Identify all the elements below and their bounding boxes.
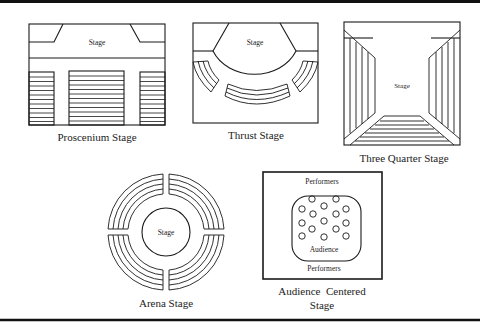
proscenium-stage-label: Stage (89, 38, 106, 47)
proscenium-stage-diagram: Stage Proscenium Stage (29, 24, 165, 143)
audience-centered-stage-diagram: Performers Audience Performers Audience … (263, 172, 382, 311)
audience-centered-title-line1: Audience Centered (278, 285, 366, 297)
proscenium-title: Proscenium Stage (57, 131, 136, 143)
performers-bottom-label: Performers (307, 264, 340, 273)
three-quarter-title: Three Quarter Stage (359, 152, 448, 164)
proscenium-seating (29, 71, 165, 125)
three-quarter-stage-label: Stage (394, 82, 410, 90)
arena-stage-label: Stage (158, 228, 175, 237)
thrust-stage-diagram: Stage Thrust Stage (193, 23, 318, 141)
arena-title: Arena Stage (139, 297, 193, 309)
thrust-title: Thrust Stage (228, 129, 284, 141)
three-quarter-stage-diagram: Stage Three Quarter Stage (344, 22, 460, 164)
arena-stage-diagram: Stage Arena Stage (108, 174, 224, 309)
thrust-seating (193, 61, 318, 104)
thrust-stage-label: Stage (247, 38, 264, 47)
audience-centered-title-line2: Stage (310, 299, 335, 311)
stage-types-diagram: Stage Proscenium Stage (0, 0, 480, 328)
audience-circles (299, 196, 349, 240)
performers-top-label: Performers (305, 177, 338, 186)
audience-label: Audience (310, 245, 339, 254)
